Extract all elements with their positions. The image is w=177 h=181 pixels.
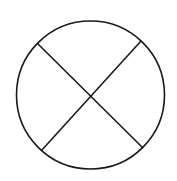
diagonal-line-1 — [37, 43, 143, 148]
diagonal-line-2 — [41, 41, 141, 151]
circle-x-diagram — [0, 0, 177, 181]
